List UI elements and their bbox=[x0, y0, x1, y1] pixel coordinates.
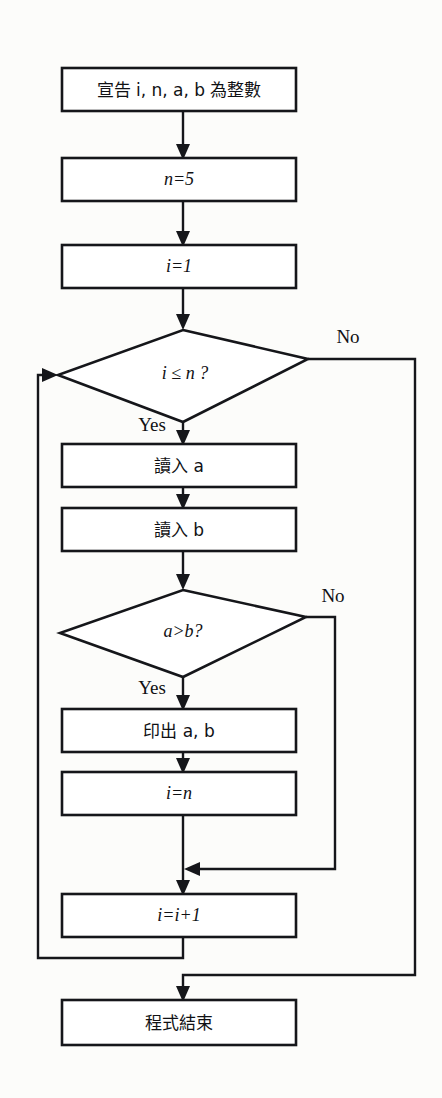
edge-label-cmp-no: No bbox=[321, 585, 344, 606]
node-set-n[interactable]: n=5 bbox=[62, 158, 296, 201]
edge-set-i-n-to-inc-i bbox=[176, 815, 190, 896]
node-read-b-label: 讀入 b bbox=[154, 520, 204, 540]
node-set-i-n[interactable]: i=n bbox=[62, 772, 296, 815]
flowchart-svg: 宣告 i, n, a, b 為整數 n=5 i=1 i ≤ n ? 讀入 a 讀… bbox=[0, 0, 442, 1098]
node-read-b[interactable]: 讀入 b bbox=[62, 508, 296, 551]
node-cond-cmp-label: a>b? bbox=[163, 621, 202, 641]
edge-read-a-to-read-b bbox=[176, 487, 190, 510]
edge-cond-loop-yes-to-read-a bbox=[176, 422, 190, 446]
edge-set-i-to-cond-loop bbox=[176, 288, 190, 330]
flowchart-canvas: 宣告 i, n, a, b 為整數 n=5 i=1 i ≤ n ? 讀入 a 讀… bbox=[0, 0, 442, 1098]
edge-label-loop-no: No bbox=[336, 326, 359, 347]
node-inc-i-label: i=i+1 bbox=[157, 905, 200, 925]
node-set-i[interactable]: i=1 bbox=[62, 245, 296, 288]
node-cond-cmp[interactable]: a>b? bbox=[60, 590, 306, 677]
edge-cond-cmp-yes-to-print-ab bbox=[176, 677, 190, 711]
node-print-ab[interactable]: 印出 a, b bbox=[62, 709, 296, 752]
node-read-a[interactable]: 讀入 a bbox=[62, 444, 296, 487]
node-read-a-label: 讀入 a bbox=[154, 456, 204, 476]
node-declare[interactable]: 宣告 i, n, a, b 為整數 bbox=[62, 68, 296, 111]
edge-label-cmp-yes: Yes bbox=[138, 677, 166, 698]
node-set-i-label: i=1 bbox=[166, 256, 192, 276]
node-end-label: 程式結束 bbox=[145, 1013, 213, 1033]
node-set-n-label: n=5 bbox=[164, 169, 194, 189]
node-end[interactable]: 程式結束 bbox=[62, 1000, 296, 1045]
node-cond-loop[interactable]: i ≤ n ? bbox=[58, 330, 308, 422]
edge-declare-to-set-n bbox=[176, 111, 190, 160]
edge-set-n-to-set-i bbox=[176, 201, 190, 247]
node-inc-i[interactable]: i=i+1 bbox=[62, 894, 296, 937]
node-cond-loop-label: i ≤ n ? bbox=[162, 363, 208, 383]
edge-read-b-to-cond-cmp bbox=[176, 551, 190, 590]
node-declare-label: 宣告 i, n, a, b 為整數 bbox=[97, 80, 262, 100]
edge-label-loop-yes: Yes bbox=[138, 414, 166, 435]
node-set-i-n-label: i=n bbox=[166, 783, 192, 803]
node-print-ab-label: 印出 a, b bbox=[143, 721, 214, 741]
